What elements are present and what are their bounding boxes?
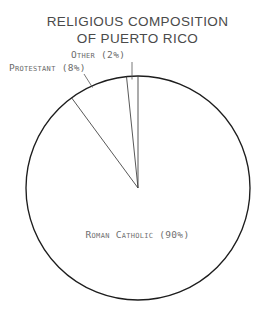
leader-line-protestant bbox=[84, 74, 93, 88]
slice-boundary-roman-catholic-protestant bbox=[72, 98, 139, 188]
pie-graphic bbox=[0, 0, 275, 326]
slice-boundary-protestant-other bbox=[127, 77, 139, 188]
pie-chart-figure: RELIGIOUS COMPOSITION OF PUERTO RICO Pro… bbox=[0, 0, 275, 326]
slice-label-roman-catholic: Roman Catholic (90%) bbox=[0, 229, 275, 240]
slice-label-protestant: Protestant (8%) bbox=[9, 62, 86, 73]
slice-label-other: Other (2%) bbox=[71, 49, 125, 60]
